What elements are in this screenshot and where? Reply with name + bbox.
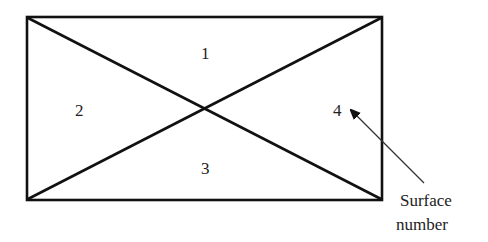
surface-2-label: 2 (75, 101, 84, 120)
surface-4-label: 4 (333, 101, 342, 120)
surface-1-label: 1 (201, 44, 210, 63)
annotation-arrow-icon (356, 115, 424, 183)
surface-diagram: 1 2 3 4 Surface number (0, 0, 488, 242)
annotation-line-2: number (396, 215, 448, 234)
surface-3-label: 3 (201, 159, 210, 178)
annotation-line-1: Surface (400, 191, 452, 210)
